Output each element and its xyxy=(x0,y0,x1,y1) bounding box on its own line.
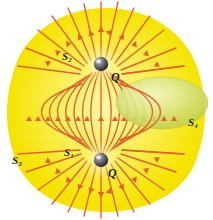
surface-label-s2: S2 xyxy=(62,50,72,63)
charge-label-top: Q xyxy=(111,70,120,85)
figure-canvas: S2 Q S1 Q S3 S4 xyxy=(0,0,213,220)
field-diagram-svg xyxy=(0,0,213,220)
surface-label-s4: S4 xyxy=(188,116,198,129)
surface-label-s1: S1 xyxy=(64,146,74,159)
charge-label-bottom: Q xyxy=(108,166,117,181)
charge-bottom xyxy=(94,153,108,167)
surface-label-s3: S3 xyxy=(12,154,22,167)
charge-top xyxy=(94,57,108,71)
